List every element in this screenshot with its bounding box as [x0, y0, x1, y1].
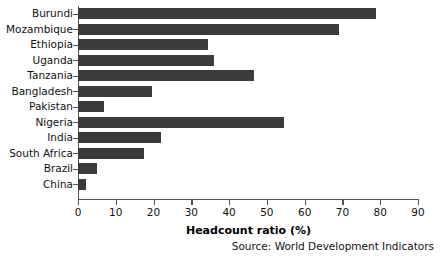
- y-axis-tick: [73, 14, 78, 15]
- bar-row: [78, 130, 418, 146]
- x-axis-tick-label-70: 70: [327, 206, 357, 219]
- x-axis-tick-label-60: 60: [290, 206, 320, 219]
- x-axis-tick-label-0: 0: [63, 206, 93, 219]
- x-axis-tick-label-90: 90: [403, 206, 433, 219]
- plot-area: [78, 6, 418, 200]
- bar-row: [78, 146, 418, 162]
- bar: [78, 132, 161, 143]
- x-axis-tick-label-10: 10: [101, 206, 131, 219]
- category-axis-labels: BurundiMozambiqueEthiopiaUgandaTanzaniaB…: [0, 6, 73, 200]
- x-axis-tick: [154, 200, 155, 205]
- bar: [78, 24, 339, 35]
- category-label-brazil: Brazil: [0, 161, 73, 177]
- source-note: Source: World Development Indicators: [232, 240, 434, 252]
- category-label-nigeria: Nigeria: [0, 115, 73, 131]
- y-axis-tick: [73, 45, 78, 46]
- x-axis-tick: [229, 200, 230, 205]
- bar: [78, 55, 214, 66]
- category-label-india: India: [0, 130, 73, 146]
- category-label-mozambique: Mozambique: [0, 22, 73, 38]
- y-axis-tick: [73, 107, 78, 108]
- bar-row: [78, 37, 418, 53]
- x-axis-tick-label-40: 40: [214, 206, 244, 219]
- x-axis-tick-label-20: 20: [139, 206, 169, 219]
- bar-row: [78, 177, 418, 193]
- y-axis-tick: [73, 184, 78, 185]
- y-axis-tick: [73, 169, 78, 170]
- category-label-bangladesh: Bangladesh: [0, 84, 73, 100]
- bar: [78, 39, 208, 50]
- bar-row: [78, 68, 418, 84]
- bar-row: [78, 161, 418, 177]
- category-label-china: China: [0, 177, 73, 193]
- x-axis-tick: [78, 200, 79, 205]
- y-axis-tick: [73, 76, 78, 77]
- bar-row: [78, 22, 418, 38]
- y-axis-tick: [73, 153, 78, 154]
- x-axis-tick: [116, 200, 117, 205]
- category-label-tanzania: Tanzania: [0, 68, 73, 84]
- category-label-south-africa: South Africa: [0, 146, 73, 162]
- y-axis-tick: [73, 122, 78, 123]
- y-axis-tick: [73, 29, 78, 30]
- bar-row: [78, 84, 418, 100]
- category-label-uganda: Uganda: [0, 53, 73, 69]
- bar-row: [78, 99, 418, 115]
- bar-row: [78, 6, 418, 22]
- x-axis-tick-label-50: 50: [252, 206, 282, 219]
- x-axis-title: Headcount ratio (%): [78, 224, 419, 237]
- category-label-pakistan: Pakistan: [0, 99, 73, 115]
- category-label-ethiopia: Ethiopia: [0, 37, 73, 53]
- bar: [78, 8, 376, 19]
- x-axis-tick: [305, 200, 306, 205]
- bar: [78, 86, 152, 97]
- y-axis-tick: [73, 60, 78, 61]
- y-axis-tick: [73, 138, 78, 139]
- x-axis-tick-label-30: 30: [176, 206, 206, 219]
- bar: [78, 70, 254, 81]
- y-axis-tick: [73, 91, 78, 92]
- bar-row: [78, 53, 418, 69]
- bar: [78, 117, 284, 128]
- x-axis-tick-label-80: 80: [365, 206, 395, 219]
- bar-row: [78, 115, 418, 131]
- x-axis-tick: [380, 200, 381, 205]
- bar: [78, 101, 104, 112]
- bar: [78, 148, 144, 159]
- bar-chart: BurundiMozambiqueEthiopiaUgandaTanzaniaB…: [0, 0, 442, 258]
- category-label-burundi: Burundi: [0, 6, 73, 22]
- bar: [78, 179, 86, 190]
- x-axis-tick: [267, 200, 268, 205]
- x-axis-tick: [191, 200, 192, 205]
- x-axis-tick: [418, 200, 419, 205]
- bar: [78, 163, 97, 174]
- x-axis-tick: [342, 200, 343, 205]
